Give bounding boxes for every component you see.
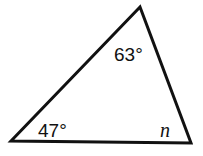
angle-label-bottom-right: n [160,119,170,141]
angle-label-top: 63° [114,44,143,65]
triangle-diagram: 63° 47° n [0,0,203,156]
angle-label-bottom-left: 47° [38,120,67,141]
